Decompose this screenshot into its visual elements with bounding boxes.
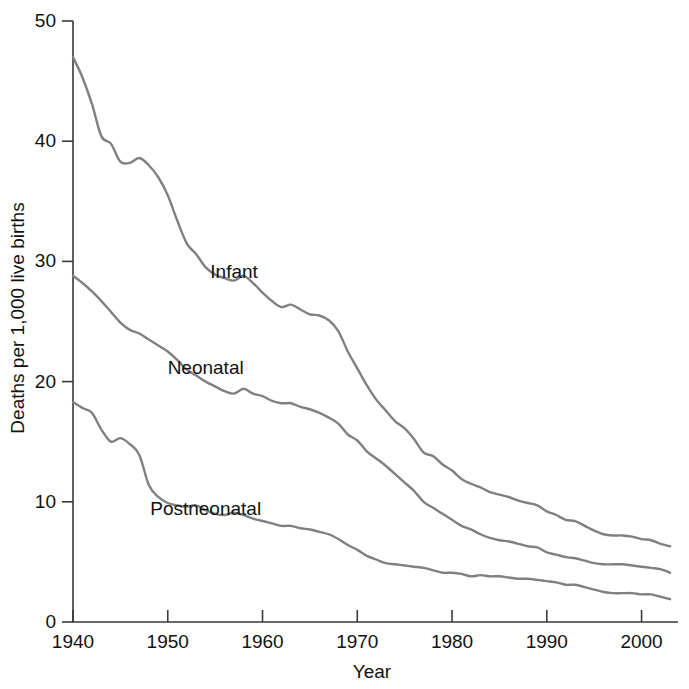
y-tick-label: 50 [35, 10, 56, 31]
line-chart: 01020304050 1940195019601970198019902000… [0, 0, 689, 689]
series-label-neonatal: Neonatal [168, 357, 244, 378]
x-tick-label: 1940 [52, 631, 94, 652]
y-tick-label: 10 [35, 491, 56, 512]
x-tick-label: 1960 [241, 631, 283, 652]
chart-container: 01020304050 1940195019601970198019902000… [0, 0, 689, 689]
x-tick-label: 1970 [336, 631, 378, 652]
series-label-infant: Infant [210, 261, 258, 282]
y-axis-title: Deaths per 1,000 live births [7, 202, 28, 433]
y-tick-label: 30 [35, 250, 56, 271]
x-tick-label: 1950 [147, 631, 189, 652]
y-tick-label: 0 [45, 611, 56, 632]
x-tick-label: 1980 [431, 631, 473, 652]
series-label-postneonatal: Postneonatal [150, 498, 261, 519]
y-tick-label: 40 [35, 130, 56, 151]
x-tick-label: 1990 [526, 631, 568, 652]
x-tick-label: 2000 [620, 631, 662, 652]
x-axis-title: Year [353, 661, 392, 682]
y-tick-label: 20 [35, 371, 56, 392]
